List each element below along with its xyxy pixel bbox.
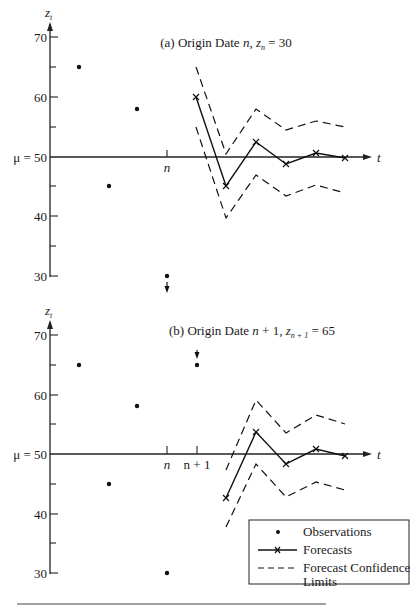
- legend-label-forecasts: Forecasts: [303, 542, 352, 557]
- upper-confidence-limit: [196, 67, 345, 154]
- y-tick-label-70: 70: [34, 30, 47, 45]
- panel-a-title: (a) Origin Date n, zn = 30: [160, 35, 292, 52]
- lower-confidence-limit: [226, 464, 345, 527]
- arrow-down-icon: [195, 350, 200, 359]
- forecast-line: [196, 97, 345, 186]
- y-tick-label-30: 30: [34, 566, 47, 581]
- y-tick-label-60: 60: [34, 90, 47, 105]
- y-axis-arrow-icon: [47, 22, 53, 31]
- y-axis-label: zt: [44, 303, 53, 320]
- panel-b: zt 70 60 μ = 50 40 30 t n n + 1 (b) Orig…: [13, 303, 410, 589]
- y-tick-label-mean: μ = 50: [13, 150, 47, 165]
- t-axis-label: t: [377, 447, 381, 462]
- x-tick-label-n: n: [164, 160, 171, 175]
- y-axis-label: zt: [44, 5, 53, 22]
- observations-series: [77, 363, 199, 575]
- t-axis-arrow-icon: [363, 451, 372, 457]
- legend-label-observations: Observations: [303, 524, 372, 539]
- observation-point: [165, 274, 169, 278]
- observation-point: [165, 571, 169, 575]
- observations-series: [77, 65, 169, 278]
- x-tick-label-n: n: [164, 457, 171, 472]
- y-tick-label-60: 60: [34, 388, 47, 403]
- observation-point: [77, 65, 81, 69]
- observation-point: [195, 363, 199, 367]
- observation-point: [135, 107, 139, 111]
- observation-point: [107, 184, 111, 188]
- observation-point: [107, 482, 111, 486]
- panel-b-title: (b) Origin Date n + 1, zn + 1 = 65: [169, 323, 335, 340]
- legend-dot-icon: [276, 530, 280, 534]
- legend-label-limits: Limits: [303, 574, 337, 589]
- legend-label-confidence: Forecast Confidence: [303, 560, 410, 575]
- y-axis-arrow-icon: [47, 320, 53, 329]
- t-axis-label: t: [377, 150, 381, 165]
- t-axis-arrow-icon: [363, 154, 372, 160]
- panel-a: zt 70 60 μ = 50 40 30 t n (a) Origin Dat…: [13, 5, 381, 293]
- observation-point: [77, 363, 81, 367]
- arrow-down-icon: [165, 282, 170, 293]
- x-tick-label-n-plus-1: n + 1: [184, 457, 211, 472]
- y-tick-label-70: 70: [34, 328, 47, 343]
- lower-confidence-limit: [196, 127, 345, 218]
- y-tick-label-40: 40: [34, 209, 47, 224]
- legend: Observations Forecasts Forecast Confiden…: [249, 520, 410, 589]
- y-tick-label-mean: μ = 50: [13, 447, 47, 462]
- forecast-x-markers: [193, 94, 348, 189]
- observation-point: [135, 404, 139, 408]
- y-tick-label-30: 30: [34, 269, 47, 284]
- forecast-chart: zt 70 60 μ = 50 40 30 t n (a) Origin Dat…: [0, 0, 410, 609]
- y-tick-label-40: 40: [34, 507, 47, 522]
